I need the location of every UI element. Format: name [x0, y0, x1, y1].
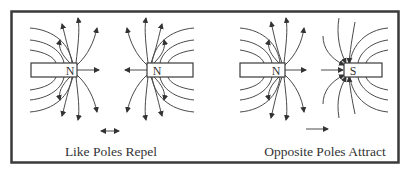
magnet-diagram: N N Like Poles Repel — [0, 0, 411, 175]
pole-label: N — [66, 64, 75, 78]
caption-opposite-poles-attract: Opposite Poles Attract — [264, 144, 386, 159]
pole-label: S — [350, 64, 357, 78]
pole-label: N — [272, 64, 281, 78]
caption-like-poles-repel: Like Poles Repel — [65, 144, 157, 159]
panel-like-poles-repel: N N Like Poles Repel — [30, 18, 194, 159]
panel-opposite-poles-attract: N S Opposite Poles Attract — [240, 18, 388, 159]
pole-label: N — [153, 64, 162, 78]
